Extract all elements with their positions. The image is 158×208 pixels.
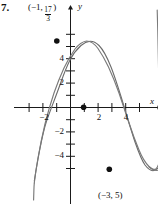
x-tick-label-4: 4 — [118, 113, 134, 122]
x-axis-arrowhead — [157, 105, 158, 110]
curve-right-tail — [149, 10, 158, 169]
y-tick-label--2: −2 — [48, 127, 64, 136]
local-min-point-label: (−3, 5) — [98, 191, 123, 200]
figure-container: 7. — [0, 0, 158, 208]
y-axis-arrowhead — [68, 5, 73, 10]
coordinate-graph-svg — [0, 0, 158, 208]
x-tick-label--2: −2 — [36, 113, 52, 122]
y-tick-label-2: 2 — [52, 78, 64, 87]
data-point-x-intercept — [81, 105, 87, 111]
y-axis-label: y — [78, 2, 82, 11]
y-tick-label--4: −4 — [48, 151, 64, 160]
graph-plot-area — [0, 0, 158, 208]
data-point-local-max — [54, 38, 60, 44]
data-point-local-min — [107, 166, 113, 172]
local-max-fraction: 173 — [43, 6, 53, 22]
fraction-numerator: 17 — [43, 6, 53, 14]
curve-left-tail — [34, 183, 35, 200]
local-max-point-label: (−1,173) — [28, 3, 56, 23]
x-axis-label: x — [150, 97, 154, 106]
y-tick-label-4: 4 — [52, 54, 64, 63]
local-max-label-suffix: ) — [53, 2, 56, 12]
local-max-label-prefix: (−1, — [28, 2, 43, 12]
x-tick-label-2: 2 — [91, 113, 107, 122]
fraction-denominator: 3 — [45, 14, 51, 23]
